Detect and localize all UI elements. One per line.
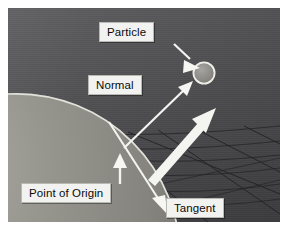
callout-labels: Particle Normal Point of Origin Tangent [8, 8, 280, 222]
label-point-of-origin: Point of Origin [21, 183, 111, 203]
figure-root: Particle Normal Point of Origin Tangent [0, 0, 288, 230]
label-normal: Normal [88, 75, 142, 95]
render-viewport: Particle Normal Point of Origin Tangent [8, 8, 280, 222]
label-particle: Particle [99, 22, 154, 42]
label-tangent: Tangent [166, 198, 224, 218]
